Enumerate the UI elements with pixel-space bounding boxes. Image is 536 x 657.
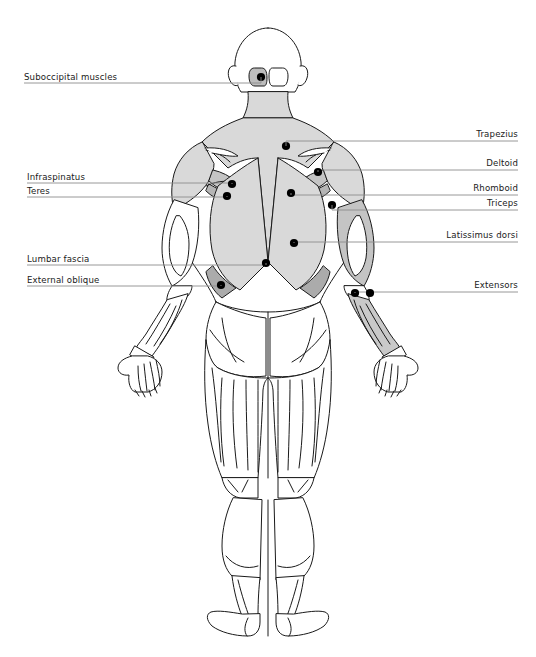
extensors-right — [348, 294, 400, 356]
neck-trapezius-upper — [243, 92, 293, 118]
lower-leg-right — [276, 576, 304, 616]
skull-outline — [235, 28, 301, 92]
deltoid-right — [322, 142, 364, 210]
label-lumbar-fascia: Lumbar fascia — [27, 254, 90, 264]
knee-right — [278, 478, 314, 498]
label-suboccipital: Suboccipital muscles — [24, 72, 118, 82]
suboccipital-patch-right — [269, 68, 288, 86]
lower-leg-left — [232, 576, 260, 616]
hand-left-group — [118, 356, 162, 397]
label-infraspinatus: Infraspinatus — [27, 172, 85, 182]
label-trapezius: Trapezius — [475, 129, 518, 139]
marker-dot-extensors-2[interactable] — [366, 289, 374, 297]
head-group — [228, 28, 307, 118]
label-rhomboid: Rhomboid — [473, 183, 518, 193]
back-muscles-diagram: Suboccipital musclesInfraspinatusTeresLu… — [0, 0, 536, 657]
forearm-left — [136, 294, 188, 356]
label-external-oblique: External oblique — [27, 275, 99, 285]
foot-left — [207, 611, 260, 636]
callout-external-oblique[interactable]: External oblique — [27, 275, 225, 289]
hand-right-group — [374, 356, 418, 397]
deltoid-left — [172, 142, 214, 210]
label-extensors: Extensors — [474, 280, 518, 290]
callout-extensors[interactable]: Extensors — [351, 280, 518, 297]
label-teres: Teres — [26, 186, 50, 196]
foot-right — [276, 611, 329, 636]
calf-right — [274, 498, 314, 582]
label-deltoid: Deltoid — [486, 158, 518, 168]
body-outline-group — [118, 28, 418, 636]
knee-left — [222, 478, 258, 498]
calf-left — [222, 498, 262, 582]
label-latissimus-dorsi: Latissimus dorsi — [446, 230, 518, 240]
label-triceps: Triceps — [486, 198, 518, 208]
